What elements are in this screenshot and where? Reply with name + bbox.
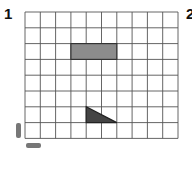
grid-diagram <box>0 0 192 169</box>
shaded-rectangle <box>71 44 117 60</box>
vertical-smudge-mark <box>16 123 21 138</box>
horizontal-smudge-mark <box>26 143 41 148</box>
